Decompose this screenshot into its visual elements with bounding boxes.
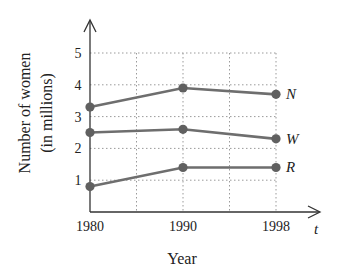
x-tick-label: 1980 — [76, 219, 104, 234]
series-r: R — [85, 159, 295, 191]
data-point — [271, 90, 280, 99]
data-point — [85, 102, 94, 111]
y-tick-label: 1 — [75, 173, 82, 188]
y-axis-title-line-2: (in millions) — [38, 73, 56, 153]
y-tick-label: 2 — [75, 141, 82, 156]
y-tick-label: 5 — [75, 46, 82, 61]
axes — [84, 20, 320, 218]
data-point — [85, 182, 94, 191]
series-label: W — [286, 131, 300, 147]
series: NWR — [85, 83, 300, 191]
x-axis-variable: t — [314, 221, 319, 237]
y-tick-label: 3 — [75, 110, 82, 125]
y-axis-title-line-1: Number of women — [16, 53, 33, 174]
series-w: W — [85, 125, 300, 147]
x-tick-label: 1990 — [169, 219, 197, 234]
series-label: R — [285, 159, 295, 175]
line-chart: NWR 12345198019901998 t Year Number of w… — [0, 0, 339, 278]
data-point — [178, 83, 187, 92]
x-axis-title: Year — [167, 250, 197, 267]
series-label: N — [285, 86, 297, 102]
y-tick-label: 4 — [75, 78, 82, 93]
data-point — [85, 128, 94, 137]
tick-labels: 12345198019901998 — [75, 46, 291, 234]
series-n: N — [85, 83, 297, 111]
data-point — [271, 134, 280, 143]
x-tick-label: 1998 — [262, 219, 290, 234]
data-point — [178, 125, 187, 134]
data-point — [178, 163, 187, 172]
data-point — [271, 163, 280, 172]
